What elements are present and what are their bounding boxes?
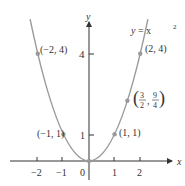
x-tick-label: 2 — [137, 167, 142, 178]
svg-text:,: , — [147, 95, 150, 106]
parabola-chart: x y −2 −1 0 1 2 4 1 y = x 2 (−2, 4) (2, … — [0, 0, 185, 186]
x-tick-label: −1 — [56, 167, 67, 178]
point-label-neg2-4: (−2, 4) — [40, 44, 67, 56]
y-axis-label: y — [85, 11, 91, 22]
point-0-0 — [87, 159, 91, 163]
x-axis-label: x — [176, 156, 182, 167]
curve-label-exponent: 2 — [173, 23, 177, 31]
point-3half-9quarter — [125, 99, 129, 103]
x-tick-label: 0 — [80, 167, 85, 178]
svg-text:9: 9 — [153, 91, 157, 100]
svg-text:3: 3 — [140, 91, 144, 100]
point-label-neg1-1: (−1, 1) — [37, 128, 64, 140]
point-2-4 — [138, 52, 142, 56]
x-tick-label: −2 — [31, 167, 42, 178]
y-tick-label: 4 — [79, 48, 85, 60]
svg-text:(: ( — [133, 88, 139, 109]
svg-text:): ) — [159, 88, 165, 109]
svg-text:4: 4 — [153, 101, 157, 110]
y-ticks — [89, 54, 94, 135]
y-tick-label: 1 — [80, 130, 85, 141]
point-label-3half-9quarter: ( 3 2 , 9 4 ) — [133, 88, 165, 110]
point-label-2-4: (2, 4) — [145, 43, 167, 55]
point-label-1-1: (1, 1) — [119, 127, 141, 139]
curve-label: y = x — [130, 25, 151, 36]
point-1-1 — [112, 132, 116, 136]
x-tick-label: 1 — [112, 167, 117, 178]
svg-text:2: 2 — [140, 101, 144, 110]
